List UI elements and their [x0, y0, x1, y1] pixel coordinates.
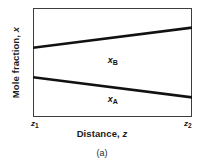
figure-panel: Mole fraction, x xB xA z1 z2 Distance, z… [0, 0, 204, 163]
figure-caption: (a) [0, 148, 204, 158]
curve-label-xA: xA [108, 95, 118, 105]
plot-area: xB xA [33, 8, 192, 117]
y-axis-label-symbol: x [10, 27, 21, 32]
curve-label-xA-subscript: A [113, 98, 118, 105]
x-axis-label-symbol: z [123, 128, 128, 139]
y-axis-label: Mole fraction, x [10, 13, 21, 113]
curve-label-xB: xB [108, 56, 118, 66]
curve-label-xB-subscript: B [113, 58, 118, 65]
y-axis-label-text: Mole fraction, [10, 32, 21, 98]
x-axis-label-text: Distance, [77, 128, 123, 139]
line-xB [33, 28, 192, 48]
x-axis-label: Distance, z [0, 128, 204, 139]
